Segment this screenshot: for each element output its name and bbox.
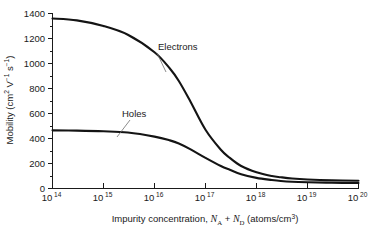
y-title-lead: Mobility (cm (4, 94, 15, 145)
x-tick-base: 10 (195, 192, 206, 203)
x-tick-base: 10 (144, 192, 155, 203)
x-tick-exponent: 14 (54, 191, 62, 198)
x-title-units-close: ) (295, 213, 298, 224)
y-tick-label: 800 (29, 83, 45, 94)
y-axis-ticks (48, 14, 53, 189)
x-tick-label: 10 14 (42, 191, 62, 203)
x-tick-label: 10 16 (144, 191, 164, 203)
y-title-close: ) (4, 56, 15, 59)
y-tick-label: 1400 (24, 8, 45, 19)
x-tick-label: 10 17 (195, 191, 215, 203)
x-tick-base: 10 (348, 192, 359, 203)
x-tick-label: 10 20 (348, 191, 368, 203)
y-tick-label: 1200 (24, 33, 45, 44)
svg-text:Impurity concentration, NA + N: Impurity concentration, NA + ND (atoms/c… (112, 213, 299, 226)
x-tick-exponent: 19 (309, 191, 317, 198)
x-tick-base: 10 (297, 192, 308, 203)
series-line-electrons (53, 19, 359, 181)
x-tick-exponent: 15 (105, 191, 113, 198)
x-axis-ticks (53, 183, 359, 189)
x-tick-exponent: 20 (360, 191, 368, 198)
chart-canvas: 0 200 400 600 800 1000 1200 1400 10 14 (0, 0, 382, 235)
y-tick-label: 600 (29, 108, 45, 119)
x-title-plus: + (222, 213, 233, 224)
x-tick-base: 10 (93, 192, 104, 203)
holes-leader-line (117, 120, 130, 137)
series-line-holes (53, 130, 359, 183)
y-axis-tick-labels: 0 200 400 600 800 1000 1200 1400 (24, 8, 45, 194)
svg-text:Mobility (cm2 V−1 s−1): Mobility (cm2 V−1 s−1) (3, 56, 15, 145)
y-axis-title: Mobility (cm2 V−1 s−1) (3, 56, 15, 145)
holes-label: Holes (122, 108, 147, 119)
x-tick-label: 10 15 (93, 191, 113, 203)
x-axis-tick-labels: 10 14 10 15 10 16 10 17 10 18 10 19 (42, 191, 368, 203)
electrons-label: Electrons (158, 41, 198, 52)
x-axis-title: Impurity concentration, NA + ND (atoms/c… (112, 213, 299, 226)
x-tick-exponent: 16 (156, 191, 164, 198)
x-tick-exponent: 18 (258, 191, 266, 198)
x-tick-label: 10 19 (297, 191, 317, 203)
x-title-units-open: (atoms/cm (244, 213, 291, 224)
y-tick-label: 1000 (24, 58, 45, 69)
x-tick-label: 10 18 (246, 191, 266, 203)
x-tick-base: 10 (246, 192, 257, 203)
x-tick-base: 10 (42, 192, 53, 203)
mobility-vs-impurity-chart: 0 200 400 600 800 1000 1200 1400 10 14 (0, 0, 382, 235)
data-series-group (53, 19, 359, 184)
y-tick-label: 400 (29, 133, 45, 144)
x-title-lead: Impurity concentration, (112, 213, 211, 224)
y-tick-label: 200 (29, 158, 45, 169)
axes-group (53, 13, 359, 189)
x-tick-exponent: 17 (207, 191, 215, 198)
